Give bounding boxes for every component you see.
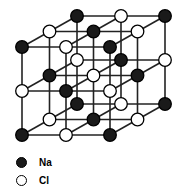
na-atom — [16, 41, 29, 54]
cl-atom — [159, 54, 172, 67]
cl-atom — [16, 85, 29, 98]
cl-atom — [115, 98, 128, 111]
na-atom — [104, 41, 117, 54]
na-atom — [87, 25, 100, 38]
na-atom — [159, 10, 172, 23]
na-atom — [71, 98, 84, 111]
na-atom — [16, 129, 29, 142]
na-atom — [71, 10, 84, 23]
cl-atom — [43, 25, 56, 38]
na-atom — [87, 113, 100, 126]
cl-atom — [131, 113, 144, 126]
cl-atom — [60, 129, 73, 142]
cl-atom — [71, 54, 84, 67]
cl-atom — [87, 69, 100, 82]
lattice-atoms — [16, 10, 172, 142]
na-atom — [60, 85, 73, 98]
na-atom — [43, 69, 56, 82]
nacl-lattice-diagram — [0, 0, 183, 190]
cl-atom — [60, 41, 73, 54]
na-atom — [131, 69, 144, 82]
cl-atom — [104, 85, 117, 98]
na-atom — [104, 129, 117, 142]
na-atom — [115, 54, 128, 67]
cl-atom — [131, 25, 144, 38]
cl-atom — [43, 113, 56, 126]
na-atom — [159, 98, 172, 111]
cl-atom — [115, 10, 128, 23]
